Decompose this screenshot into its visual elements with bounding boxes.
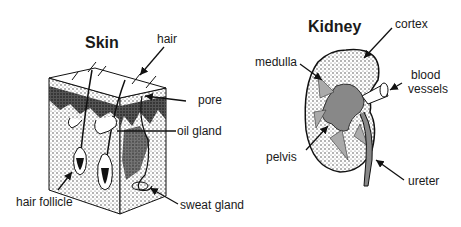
diagram-artwork [0, 0, 461, 227]
label-pelvis: pelvis [266, 150, 297, 164]
label-blood-vessels-line1: blood [411, 68, 440, 82]
label-pore: pore [198, 93, 222, 107]
label-oil-gland: oil gland [177, 124, 222, 138]
label-medulla: medulla [255, 55, 297, 69]
label-cortex: cortex [395, 17, 428, 31]
kidney-illustration [305, 50, 388, 186]
label-blood-vessels-line2: vessels [408, 82, 448, 96]
label-hair: hair [157, 32, 177, 46]
label-sweat-gland: sweat gland [180, 198, 244, 212]
kidney-title: Kidney [308, 18, 361, 36]
label-hair-follicle: hair follicle [16, 195, 73, 209]
skin-illustration [49, 62, 166, 214]
skin-title: Skin [85, 34, 119, 52]
label-ureter: ureter [408, 174, 439, 188]
